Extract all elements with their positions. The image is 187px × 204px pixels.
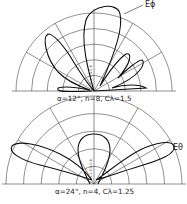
bottom-polar-grid bbox=[2, 96, 186, 184]
top-caption: α=12°, n=8, Cλ=1.5 bbox=[57, 94, 132, 103]
top-label-leader bbox=[124, 5, 143, 14]
bottom-curve-label: Eθ bbox=[173, 143, 183, 152]
top-pattern-curve bbox=[45, 6, 146, 91]
top-curve-label: Eϕ bbox=[145, 0, 155, 9]
top-scale-ticks: 0.2 0.4 0.6 bbox=[89, 65, 93, 84]
bottom-scale-ticks: 0.2 0.4 0.6 bbox=[89, 159, 93, 178]
bottom-caption: α=24°, n=4, Cλ=1.25 bbox=[55, 187, 134, 196]
top-polar-grid bbox=[12, 9, 176, 91]
